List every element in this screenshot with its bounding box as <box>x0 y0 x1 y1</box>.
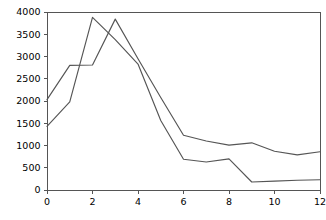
x-tick-label: 6 <box>180 196 186 207</box>
x-tick-label: 8 <box>226 196 232 207</box>
series-line-series-2 <box>47 17 320 182</box>
x-tick-label: 0 <box>44 196 50 207</box>
data-series-group <box>47 17 320 182</box>
x-axis-ticks: 024681012 <box>44 190 326 207</box>
chart-canvas: 024681012 050010001500200025003000350040… <box>0 0 326 220</box>
x-tick-label: 10 <box>268 196 280 207</box>
y-tick-label: 2000 <box>16 95 40 106</box>
plot-frame <box>47 12 320 190</box>
plot-border <box>47 12 320 190</box>
y-tick-label: 2500 <box>16 73 40 84</box>
y-tick-label: 1000 <box>16 140 40 151</box>
y-tick-label: 0 <box>34 184 40 195</box>
line-chart-figure: 024681012 050010001500200025003000350040… <box>0 0 326 220</box>
y-tick-label: 500 <box>22 162 40 173</box>
series-line-series-1 <box>47 19 320 155</box>
y-tick-label: 1500 <box>16 118 40 129</box>
y-tick-label: 4000 <box>16 6 40 17</box>
y-tick-label: 3000 <box>16 51 40 62</box>
x-tick-label: 12 <box>314 196 326 207</box>
x-tick-label: 4 <box>135 196 141 207</box>
y-axis-ticks: 05001000150020002500300035004000 <box>16 6 47 195</box>
x-tick-label: 2 <box>89 196 95 207</box>
y-tick-label: 3500 <box>16 29 40 40</box>
